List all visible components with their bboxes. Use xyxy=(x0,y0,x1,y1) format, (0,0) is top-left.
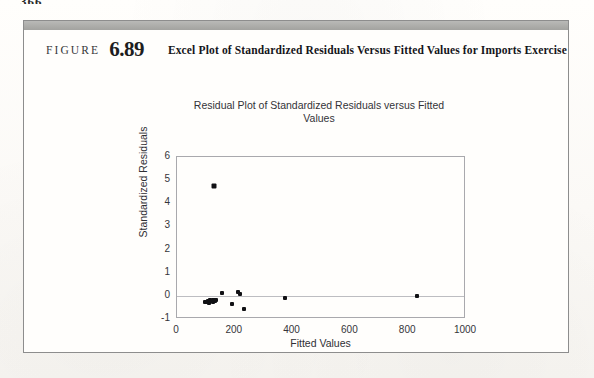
data-point xyxy=(238,292,242,296)
page-folio: 366 xyxy=(20,0,43,4)
data-point xyxy=(283,296,287,300)
y-tick-label: 0 xyxy=(124,289,170,300)
plot-area xyxy=(176,156,465,318)
x-tick-label: 1000 xyxy=(442,324,488,335)
data-point xyxy=(415,294,419,298)
chart-title: Residual Plot of Standardized Residuals … xyxy=(119,99,519,125)
y-tick-label: 4 xyxy=(124,196,170,207)
x-tick-label: 600 xyxy=(326,324,372,335)
figure-number: 6.89 xyxy=(109,37,144,62)
x-axis-label: Fitted Values xyxy=(176,337,465,349)
figure-title: Excel Plot of Standardized Residuals Ver… xyxy=(168,44,567,56)
excel-scatter-chart: Residual Plot of Standardized Residuals … xyxy=(119,81,519,336)
data-point xyxy=(214,298,218,302)
chart-title-line-2: Values xyxy=(119,112,519,125)
figure-caption: FIGURE 6.89 Excel Plot of Standardized R… xyxy=(24,35,568,59)
figure-label-word: FIGURE xyxy=(46,44,100,56)
y-tick-label: 3 xyxy=(124,219,170,230)
zero-reference-line xyxy=(177,296,464,297)
y-tick-label: 6 xyxy=(124,150,170,161)
data-point xyxy=(211,184,216,189)
x-tick-label: 800 xyxy=(384,324,430,335)
y-tick-label: 2 xyxy=(124,243,170,254)
chart-title-line-1: Residual Plot of Standardized Residuals … xyxy=(119,99,519,112)
figure-headband xyxy=(24,21,568,30)
x-tick-label: 200 xyxy=(211,324,257,335)
data-point xyxy=(242,307,246,311)
data-point xyxy=(220,291,224,295)
figure-box: FIGURE 6.89 Excel Plot of Standardized R… xyxy=(23,20,569,353)
y-tick-label: 1 xyxy=(124,266,170,277)
x-tick-label: 400 xyxy=(269,324,315,335)
y-tick-label: 5 xyxy=(124,173,170,184)
data-point xyxy=(230,302,234,306)
x-tick-label: 0 xyxy=(153,324,199,335)
y-tick-label: -1 xyxy=(124,312,170,323)
